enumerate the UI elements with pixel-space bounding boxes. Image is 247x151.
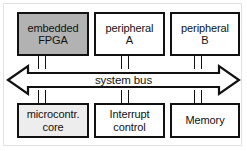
system-bus-arrow[interactable]: [6, 62, 241, 98]
block-interrupt-control[interactable]: Interrupt control: [94, 103, 165, 138]
block-peripheral-b[interactable]: peripheral B: [170, 12, 240, 56]
block-interrupt-control-label: Interrupt control: [108, 108, 150, 133]
block-diagram: embedded FPGA peripheral A peripheral B …: [0, 0, 247, 151]
system-bus-arrow-shape: [6, 62, 241, 98]
block-peripheral-a-label: peripheral A: [105, 22, 155, 47]
block-peripheral-a[interactable]: peripheral A: [94, 12, 165, 56]
block-memory[interactable]: Memory: [170, 103, 240, 138]
block-memory-label: Memory: [184, 114, 225, 127]
block-embedded-fpga[interactable]: embedded FPGA: [17, 12, 89, 56]
block-peripheral-b-label: peripheral B: [180, 22, 230, 47]
block-microcontroller-core[interactable]: microcontr. core: [17, 103, 89, 138]
block-embedded-fpga-label: embedded FPGA: [26, 22, 79, 47]
block-microcontroller-core-label: microcontr. core: [26, 108, 81, 133]
